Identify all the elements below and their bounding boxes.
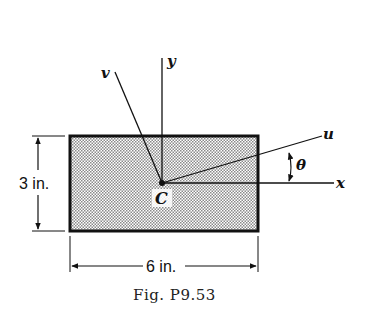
figure-caption: Fig. P9.53 [133, 286, 216, 304]
diagram-svg: y v u x θ C 3 in. 6 in. Fig. P9.53 [0, 0, 367, 315]
centroid-point [159, 180, 165, 186]
figure-canvas: y v u x θ C 3 in. 6 in. Fig. P9.53 [0, 0, 367, 315]
v-axis-label: v [101, 64, 110, 82]
theta-label: θ [296, 156, 306, 174]
width-dimension-label: 6 in. [146, 258, 176, 275]
x-axis-label: x [335, 174, 346, 192]
u-axis-label: u [323, 125, 334, 143]
y-axis-label: y [166, 52, 177, 70]
centroid-label: C [155, 189, 168, 208]
height-dimension-label: 3 in. [19, 175, 49, 192]
theta-angle-arc [289, 153, 291, 181]
